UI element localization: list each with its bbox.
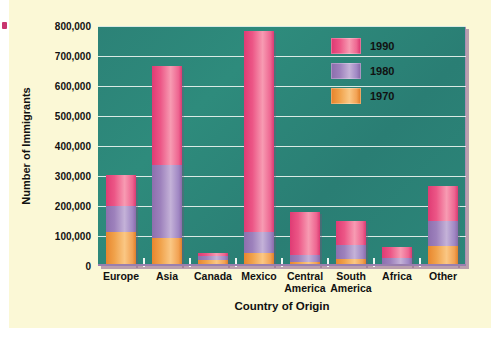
chart-page: Number of Immigrants 0100,000200,000300,… <box>0 0 491 338</box>
bar-segment-1970[interactable] <box>428 246 458 266</box>
x-axis-tick-label: Africa <box>374 270 420 282</box>
bar-segment-1980[interactable] <box>290 255 320 263</box>
bar-segment-1980[interactable] <box>198 256 228 260</box>
bar-segment-1970[interactable] <box>106 232 136 267</box>
y-axis-tick-label: 0 <box>85 261 91 272</box>
y-axis-tick-label: 200,000 <box>55 201 91 212</box>
bar-shadow <box>136 177 138 269</box>
bar-group[interactable] <box>152 66 182 266</box>
bar-segment-1990[interactable] <box>244 31 274 232</box>
bar-shadow <box>366 223 368 268</box>
bar-segment-1980[interactable] <box>106 206 136 232</box>
bar-shadow <box>182 68 184 268</box>
x-axis-tick-label: Canada <box>190 270 236 282</box>
y-axis-tick-label: 100,000 <box>55 231 91 242</box>
y-axis-tick-label: 400,000 <box>55 141 91 152</box>
legend-label: 1980 <box>370 65 394 77</box>
page-left-margin <box>0 0 9 338</box>
x-axis-tick-label: Asia <box>144 270 190 282</box>
bar-group[interactable] <box>244 31 274 266</box>
legend-item[interactable]: 1970 <box>331 88 394 104</box>
bar-segment-1990[interactable] <box>428 186 458 221</box>
page-bottom-margin <box>0 328 491 338</box>
legend-label: 1990 <box>370 40 394 52</box>
x-axis-tick-label: Other <box>420 270 466 282</box>
bar-segment-1980[interactable] <box>428 221 458 246</box>
bar-segment-1990[interactable] <box>336 221 366 245</box>
y-axis-title: Number of Immigrants <box>17 26 35 266</box>
legend-swatch-1980 <box>331 63 361 79</box>
bar-shadow <box>458 188 460 268</box>
y-axis-tick-label: 300,000 <box>55 171 91 182</box>
chart-legend: 199019801970 <box>331 38 394 104</box>
bar-segment-1970[interactable] <box>152 238 182 266</box>
bar-segment-1980[interactable] <box>382 258 412 264</box>
x-axis-line <box>98 264 466 266</box>
page-corner-mark <box>2 22 7 29</box>
bar-segment-1990[interactable] <box>198 253 228 257</box>
bar-series-layer <box>98 26 466 266</box>
bar-segment-1990[interactable] <box>290 212 320 255</box>
chart-plot-area: 0100,000200,000300,000400,000500,000600,… <box>98 26 466 266</box>
x-axis-tick-label: Europe <box>98 270 144 282</box>
bar-segment-1980[interactable] <box>152 165 182 239</box>
bar-segment-1990[interactable] <box>382 247 412 257</box>
bar-group[interactable] <box>336 221 366 266</box>
legend-label: 1970 <box>370 90 394 102</box>
x-axis-tick-label: Mexico <box>236 270 282 282</box>
legend-item[interactable]: 1990 <box>331 38 394 54</box>
bar-segment-1980[interactable] <box>244 232 274 253</box>
legend-swatch-1970 <box>331 88 361 104</box>
y-axis-tick-label: 600,000 <box>55 81 91 92</box>
bar-segment-1980[interactable] <box>336 245 366 259</box>
bar-segment-1990[interactable] <box>152 66 182 165</box>
bar-segment-1990[interactable] <box>106 175 136 207</box>
bar-group[interactable] <box>106 175 136 267</box>
legend-item[interactable]: 1980 <box>331 63 394 79</box>
y-axis-tick-label: 500,000 <box>55 111 91 122</box>
x-axis-title: Country of Origin <box>98 300 466 312</box>
x-axis-tick-label: South America <box>328 270 374 294</box>
bar-shadow <box>274 33 276 268</box>
y-axis-tick-label: 800,000 <box>55 21 91 32</box>
bar-group[interactable] <box>428 186 458 266</box>
y-axis-tick-label: 700,000 <box>55 51 91 62</box>
bar-group[interactable] <box>290 212 320 266</box>
bar-shadow <box>320 214 322 268</box>
x-axis-tick-label: Central America <box>282 270 328 294</box>
legend-swatch-1990 <box>331 38 361 54</box>
